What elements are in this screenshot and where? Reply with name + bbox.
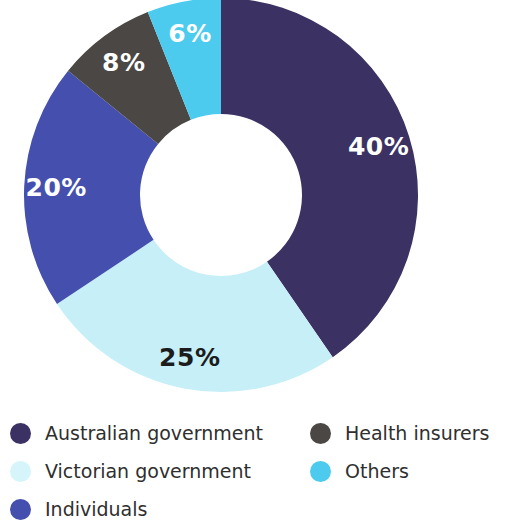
legend-column-left: Australian governmentVictorian governmen… <box>10 414 310 527</box>
legend-item-label: Victorian government <box>45 461 251 482</box>
legend-item[interactable]: Others <box>310 452 506 490</box>
donut-slice-value-label: 6% <box>168 19 211 48</box>
donut-chart-graphic: 40%25%20%8%6% <box>22 0 420 394</box>
legend-color-swatch-icon <box>10 499 31 520</box>
donut-slice-value-label: 25% <box>159 343 220 372</box>
legend-color-swatch-icon <box>10 461 31 482</box>
legend-item[interactable]: Victorian government <box>10 452 310 490</box>
legend-item-label: Others <box>345 461 409 482</box>
chart-legend: Australian governmentVictorian governmen… <box>0 414 506 527</box>
donut-slice-value-label: 40% <box>348 132 409 161</box>
legend-color-swatch-icon <box>310 423 331 444</box>
donut-slice-value-label: 20% <box>26 173 87 202</box>
legend-item-label: Australian government <box>45 423 263 444</box>
legend-item[interactable]: Australian government <box>10 414 310 452</box>
legend-column-right: Health insurersOthers <box>310 414 506 490</box>
donut-chart-figure: 40%25%20%8%6% Australian governmentVicto… <box>0 0 506 527</box>
legend-color-swatch-icon <box>310 461 331 482</box>
donut-svg: 40%25%20%8%6% <box>22 0 420 394</box>
legend-item-label: Individuals <box>45 499 147 520</box>
legend-color-swatch-icon <box>10 423 31 444</box>
legend-item-label: Health insurers <box>345 423 490 444</box>
legend-item[interactable]: Individuals <box>10 490 310 527</box>
legend-item[interactable]: Health insurers <box>310 414 506 452</box>
donut-slice-value-label: 8% <box>102 48 145 77</box>
